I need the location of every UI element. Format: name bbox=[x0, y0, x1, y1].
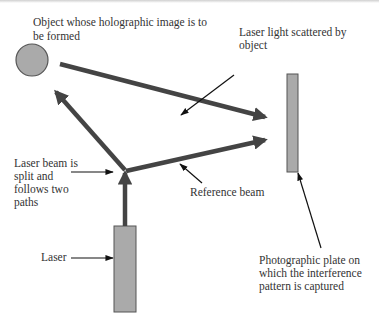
object-label-line2: be formed bbox=[33, 30, 80, 42]
scattered-label-line1: Laser light scattered by bbox=[239, 26, 347, 39]
split-label-line1: Laser beam is bbox=[14, 157, 78, 169]
object-sphere bbox=[16, 44, 48, 76]
plate-label-line1: Photographic plate on bbox=[259, 254, 360, 267]
scattered-beam bbox=[60, 64, 265, 117]
split-label-line4: paths bbox=[14, 196, 39, 209]
split-label-line2: split and bbox=[14, 170, 54, 183]
plate-label-line3: pattern is captured bbox=[259, 280, 344, 293]
plate-label-line2: which the interference bbox=[259, 267, 362, 279]
reference-beam bbox=[126, 140, 265, 171]
holography-diagram: Object whose holographic image is to be … bbox=[0, 0, 379, 327]
split-label-line3: follows two bbox=[14, 183, 69, 195]
scattered-label-line2: object bbox=[239, 39, 268, 52]
reference-pointer-arrow bbox=[180, 164, 202, 183]
laser-label: Laser bbox=[41, 251, 67, 263]
plate-pointer-arrow bbox=[298, 173, 321, 248]
photographic-plate bbox=[287, 74, 298, 172]
laser-box bbox=[114, 226, 136, 312]
object-label-line1: Object whose holographic image is to bbox=[33, 16, 207, 29]
reference-beam-label: Reference beam bbox=[190, 186, 264, 198]
